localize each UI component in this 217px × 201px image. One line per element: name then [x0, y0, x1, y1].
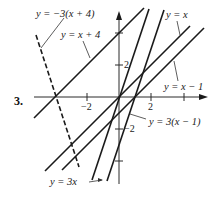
line-y-eq-x-minus-1	[62, 28, 204, 170]
problem-number: 3.	[14, 94, 23, 108]
label-y-eq-3x-minus-1: y = 3(x − 1)	[148, 116, 201, 128]
label-y-eq-neg3-x-plus-4: y = −3(x + 4)	[35, 8, 95, 20]
leader-yx	[177, 21, 180, 35]
y-axis-arrow-icon	[116, 11, 122, 20]
x-axis-arrow-icon	[199, 94, 208, 100]
line-y-eq-3x	[92, 9, 149, 180]
label-y-eq-x-minus-1: y = x − 1	[163, 81, 203, 92]
x-tick-label-neg2: −2	[81, 101, 92, 112]
leader-arrow-icon	[98, 178, 103, 182]
leader-3xminus1	[130, 114, 146, 119]
leader-xminus1	[174, 61, 178, 81]
label-y-eq-x-plus-4: y = x + 4	[60, 29, 101, 40]
x-tick-label-pos2: 2	[148, 101, 153, 112]
label-y-eq-3x: y = 3x	[49, 176, 77, 187]
linear-graphs-diagram: −2 2 2 −2 y = −3(x + 4) y = x + 4 y = x …	[0, 0, 217, 201]
line-y-eq-neg3-x-plus-4	[36, 35, 79, 167]
y-tick-label-pos2: 2	[124, 59, 129, 70]
label-y-eq-x: y = x	[165, 9, 188, 20]
leader-xplus4	[83, 41, 90, 58]
